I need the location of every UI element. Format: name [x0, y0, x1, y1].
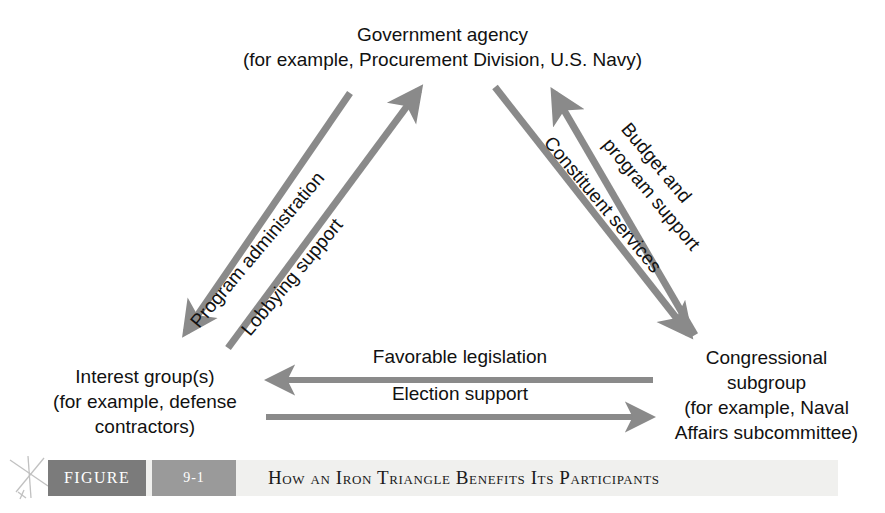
node-interest-group-line3: contractors): [20, 414, 270, 439]
node-congressional-subgroup: Congressional subgroup (for example, Nav…: [648, 345, 885, 445]
node-interest-group-line1: Interest group(s): [20, 364, 270, 389]
caption-title: How an Iron Triangle Benefits Its Partic…: [236, 460, 838, 496]
caption-figure-number: 9-1: [152, 460, 236, 496]
node-congressional-subgroup-line3: (for example, Naval: [648, 395, 885, 420]
node-government-agency-line2: (for example, Procurement Division, U.S.…: [0, 47, 885, 72]
node-interest-group-line2: (for example, defense: [20, 389, 270, 414]
node-interest-group: Interest group(s) (for example, defense …: [20, 364, 270, 439]
node-government-agency: Government agency (for example, Procurem…: [0, 22, 885, 72]
arrow-label-favorable-legislation: Favorable legislation: [266, 346, 654, 368]
node-congressional-subgroup-line4: Affairs subcommittee): [648, 420, 885, 445]
figure-caption-bar: FIGURE 9-1 How an Iron Triangle Benefits…: [48, 460, 838, 496]
node-government-agency-line1: Government agency: [0, 22, 885, 47]
arrow-label-election-support: Election support: [266, 383, 654, 405]
iron-triangle-diagram: Government agency (for example, Procurem…: [0, 0, 885, 513]
caption-figure-label: FIGURE: [48, 460, 146, 496]
node-congressional-subgroup-line2: subgroup: [648, 370, 885, 395]
node-congressional-subgroup-line1: Congressional: [648, 345, 885, 370]
